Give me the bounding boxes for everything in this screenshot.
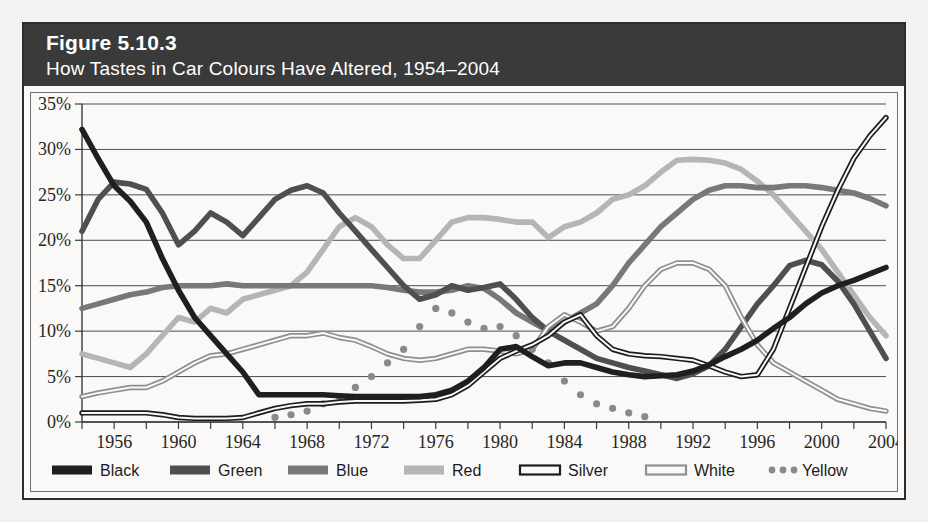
- legend-swatch: [52, 466, 92, 475]
- data-point: [513, 332, 520, 339]
- data-point: [641, 413, 648, 420]
- x-axis-tick-label: 1960: [160, 432, 196, 452]
- legend-label: Black: [100, 462, 140, 479]
- data-point: [400, 346, 407, 353]
- x-axis-tick-label: 2000: [804, 432, 840, 452]
- x-axis-tick-label: 1996: [739, 432, 775, 452]
- legend-swatch-dot: [791, 467, 798, 474]
- figure-subtitle: How Tastes in Car Colours Have Altered, …: [46, 56, 904, 81]
- legend-label: Blue: [336, 462, 368, 479]
- y-axis-tick-label: 25%: [38, 185, 71, 205]
- legend-swatch-double: [646, 466, 686, 475]
- y-axis-tick-label: 15%: [38, 276, 71, 296]
- data-point: [271, 414, 278, 421]
- legend-swatch-dot: [780, 467, 787, 474]
- legend-label: Silver: [568, 462, 609, 479]
- legend-swatch: [404, 466, 444, 475]
- series-line: [82, 186, 886, 331]
- legend-item-green[interactable]: Green: [170, 462, 262, 479]
- data-point: [496, 323, 503, 330]
- figure-number: Figure 5.10.3: [46, 30, 904, 56]
- data-point: [416, 323, 423, 330]
- data-point: [368, 373, 375, 380]
- legend-swatch: [170, 466, 210, 475]
- x-axis-tick-label: 1988: [611, 432, 647, 452]
- data-point: [384, 359, 391, 366]
- data-point: [464, 318, 471, 325]
- legend-item-blue[interactable]: Blue: [288, 462, 368, 479]
- data-point: [432, 305, 439, 312]
- y-axis-tick-label: 10%: [38, 321, 71, 341]
- figure-container: Figure 5.10.3 How Tastes in Car Colours …: [0, 0, 928, 522]
- data-point: [480, 325, 487, 332]
- data-point: [448, 309, 455, 316]
- legend-item-yellow[interactable]: Yellow: [769, 462, 849, 479]
- x-axis-tick-label: 1968: [289, 432, 325, 452]
- figure-title-bar: Figure 5.10.3 How Tastes in Car Colours …: [24, 24, 904, 86]
- chart-svg-wrap: 0%5%10%15%20%25%30%35%195619601964196819…: [30, 92, 898, 496]
- legend-item-black[interactable]: Black: [52, 462, 140, 479]
- data-point: [609, 405, 616, 412]
- legend-label: Red: [452, 462, 481, 479]
- x-axis-tick-label: 1992: [675, 432, 711, 452]
- legend-label: Yellow: [802, 462, 848, 479]
- x-axis-tick-label: 1976: [418, 432, 454, 452]
- legend-label: White: [694, 462, 735, 479]
- x-axis-tick-label: 1972: [353, 432, 389, 452]
- legend-swatch-double: [520, 466, 560, 475]
- y-axis-tick-label: 0%: [47, 412, 71, 432]
- y-axis-tick-label: 5%: [47, 367, 71, 387]
- x-axis-tick-label: 1984: [546, 432, 582, 452]
- series-blue: [82, 186, 886, 331]
- legend-label: Green: [218, 462, 262, 479]
- y-axis-tick-label: 20%: [38, 230, 71, 250]
- y-axis-tick-label: 35%: [38, 94, 71, 114]
- data-point: [625, 409, 632, 416]
- legend-swatch-dot: [769, 467, 776, 474]
- data-point: [561, 378, 568, 385]
- legend-item-silver[interactable]: Silver: [520, 462, 609, 479]
- legend-item-white[interactable]: White: [646, 462, 735, 479]
- legend-swatch: [288, 466, 328, 475]
- x-axis-tick-label: 1980: [482, 432, 518, 452]
- data-point: [577, 391, 584, 398]
- data-point: [352, 384, 359, 391]
- y-axis-tick-label: 30%: [38, 139, 71, 159]
- x-axis-tick-label: 1956: [96, 432, 132, 452]
- series-silver: [82, 118, 886, 419]
- legend-item-red[interactable]: Red: [404, 462, 481, 479]
- data-point: [304, 407, 311, 414]
- line-chart: 0%5%10%15%20%25%30%35%195619601964196819…: [30, 92, 898, 492]
- x-axis-tick-label: 2004: [868, 432, 898, 452]
- series-inner-gap: [82, 118, 886, 419]
- data-point: [287, 411, 294, 418]
- data-point: [593, 400, 600, 407]
- x-axis-tick-label: 1964: [225, 432, 261, 452]
